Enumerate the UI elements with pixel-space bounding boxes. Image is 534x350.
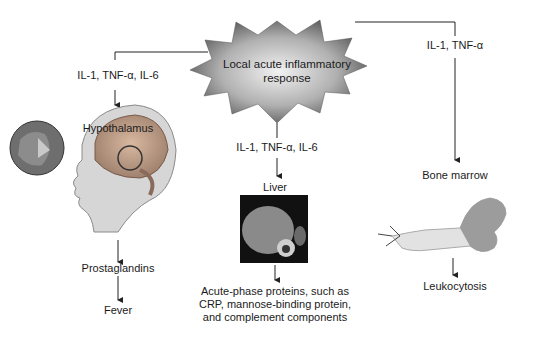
center-mediators-label: IL-1, TNF-α, IL-6 bbox=[227, 141, 327, 154]
outcome-line-1: Acute-phase proteins, such as bbox=[180, 285, 370, 298]
diagram-canvas: Local acute inflammatory response IL-1, … bbox=[0, 0, 534, 350]
liver-label: Liver bbox=[245, 181, 305, 194]
fever-label: Fever bbox=[88, 304, 148, 317]
bone-marrow-label: Bone marrow bbox=[412, 169, 498, 182]
right-mediators-label: IL-1, TNF-α bbox=[415, 39, 495, 52]
outcome-line-3: and complement components bbox=[180, 311, 370, 324]
liver-ct-image bbox=[240, 195, 308, 263]
center-label: Local acute inflammatory response bbox=[222, 57, 352, 85]
acute-phase-proteins-label: Acute-phase proteins, such as CRP, manno… bbox=[180, 285, 370, 324]
hypothalamus-label: Hypothalamus bbox=[78, 122, 158, 135]
leukocytosis-label: Leukocytosis bbox=[412, 280, 498, 293]
center-label-line1: Local acute inflammatory bbox=[222, 57, 352, 71]
prostaglandins-label: Prostaglandins bbox=[68, 262, 168, 275]
outcome-line-2: CRP, mannose-binding protein, bbox=[180, 298, 370, 311]
bone-marrow-image bbox=[378, 198, 506, 252]
center-label-line2: response bbox=[222, 71, 352, 85]
left-mediators-label: IL-1, TNF-α, IL-6 bbox=[68, 69, 168, 82]
